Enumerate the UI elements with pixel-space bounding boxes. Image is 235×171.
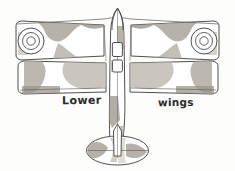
aircraft-figure: Lower wings (0, 0, 235, 171)
rear-cockpit-opening (112, 60, 122, 72)
tail-assembly (87, 124, 149, 165)
front-cockpit-opening (112, 43, 122, 57)
right-wingtip-roundel (191, 28, 217, 54)
biplane-line-drawing (0, 0, 235, 171)
left-wingtip-roundel (18, 28, 44, 54)
